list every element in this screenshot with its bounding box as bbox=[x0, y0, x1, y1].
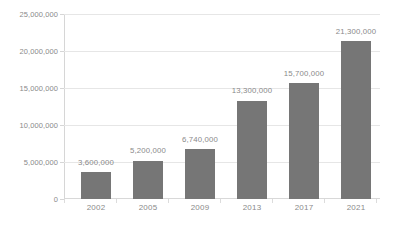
x-axis-label-2009: 2009 bbox=[191, 203, 210, 212]
bar-2021[interactable] bbox=[341, 41, 371, 199]
x-axis-label-2017: 2017 bbox=[295, 203, 314, 212]
bar-2005[interactable] bbox=[133, 161, 163, 200]
bar-2002[interactable] bbox=[81, 172, 111, 199]
data-label-2021: 21,300,000 bbox=[336, 27, 377, 36]
bar-chart: 0 5,000,000 10,000,000 15,000,000 20,000… bbox=[0, 0, 394, 226]
x-axis-label-2002: 2002 bbox=[87, 203, 106, 212]
y-axis-tick-label: 25,000,000 bbox=[0, 10, 58, 19]
gridline bbox=[64, 88, 380, 89]
y-axis-tick-label: 0 bbox=[0, 195, 58, 204]
data-label-2017: 15,700,000 bbox=[284, 69, 325, 78]
x-axis-tick bbox=[324, 199, 325, 203]
data-label-2002: 3,600,000 bbox=[78, 158, 114, 167]
gridline bbox=[64, 125, 380, 126]
x-axis-label-2013: 2013 bbox=[243, 203, 262, 212]
x-axis-tick bbox=[376, 199, 377, 203]
bar-2009[interactable] bbox=[185, 149, 215, 199]
data-label-2005: 5,200,000 bbox=[130, 146, 166, 155]
y-axis-tick-label: 10,000,000 bbox=[0, 121, 58, 130]
bar-2017[interactable] bbox=[289, 83, 319, 199]
x-axis-tick bbox=[272, 199, 273, 203]
x-axis-tick bbox=[64, 199, 65, 203]
gridline bbox=[64, 14, 380, 15]
plot-area bbox=[64, 14, 380, 199]
data-label-2013: 13,300,000 bbox=[232, 86, 273, 95]
data-label-2009: 6,740,000 bbox=[182, 135, 218, 144]
x-axis-tick bbox=[220, 199, 221, 203]
y-axis-tick-label: 5,000,000 bbox=[0, 158, 58, 167]
y-axis-tick-label: 15,000,000 bbox=[0, 84, 58, 93]
x-axis-tick bbox=[116, 199, 117, 203]
axis-baseline bbox=[64, 198, 380, 199]
gridline bbox=[64, 51, 380, 52]
x-axis-label-2005: 2005 bbox=[139, 203, 158, 212]
x-axis-label-2021: 2021 bbox=[347, 203, 366, 212]
y-axis-tick-label: 20,000,000 bbox=[0, 47, 58, 56]
x-axis-tick bbox=[168, 199, 169, 203]
bar-2013[interactable] bbox=[237, 101, 267, 199]
